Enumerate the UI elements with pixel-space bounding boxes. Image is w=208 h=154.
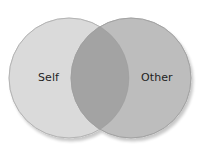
venn-diagram	[0, 0, 208, 154]
self-label: Self	[38, 72, 59, 83]
other-label: Other	[141, 72, 173, 83]
